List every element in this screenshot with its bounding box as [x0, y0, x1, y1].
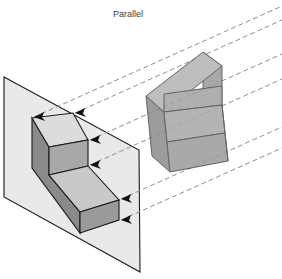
- projection-arrow-2: [75, 108, 86, 117]
- figure-canvas: Parallel: [0, 0, 282, 279]
- object-3d-group: [146, 52, 228, 172]
- parallel-projection-figure: Parallel: [0, 0, 282, 279]
- figure-title: Parallel: [113, 9, 143, 19]
